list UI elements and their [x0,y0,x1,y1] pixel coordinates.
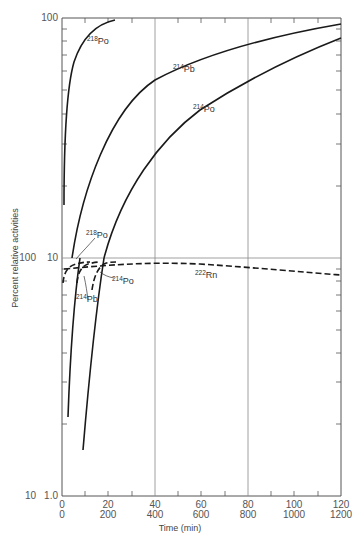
dashed-curves [63,262,341,290]
y-ticks [62,29,341,424]
svg-text:800: 800 [240,509,257,520]
y-tick-100-mid: 100 [19,252,36,263]
label-rn222: 222Rn [195,269,217,280]
y-tick-1-bottom: 1.0 [44,490,58,501]
x-tick-labels-lower: 0 200 400 600 800 1000 1200 [59,509,352,520]
label-po214-lower: 214Po [112,275,134,286]
radon-decay-chart: 218Po 214Pb 214Po 218Po 214Pb 214Po 222R… [0,0,362,543]
x-ticks [85,18,318,496]
curve-pb214-lower [68,258,80,417]
svg-text:1200: 1200 [330,509,353,520]
y-tick-labels: 100 100 10 10 1.0 [19,12,58,501]
label-pb214-lower: 214Pb [76,293,98,304]
curve-po214-upper [104,38,341,258]
svg-text:200: 200 [100,509,117,520]
label-po218-upper: 218Po [87,35,109,46]
svg-text:0: 0 [59,509,65,520]
y-tick-100-top: 100 [41,12,58,23]
label-pb214-upper: 214Pb [173,63,195,74]
curve-pb214-upper [72,24,341,258]
curve-po218-upper [64,20,115,205]
svg-text:600: 600 [193,509,210,520]
pointer-po218-lower [76,238,95,259]
svg-text:400: 400 [147,509,164,520]
y-axis-title: Percent relative activities [10,208,20,308]
svg-text:1000: 1000 [283,509,306,520]
y-tick-10-bottom: 10 [25,490,37,501]
x-axis-title: Time (min) [159,523,202,533]
label-po218-lower: 218Po [86,229,108,240]
y-tick-10-mid: 10 [47,252,59,263]
